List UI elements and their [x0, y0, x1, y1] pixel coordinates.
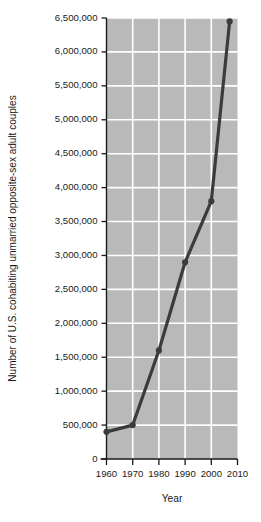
y-axis-tick-label: 5,500,000 [55, 79, 98, 90]
line-chart: 0500,0001,000,0001,500,0002,000,0002,500… [0, 0, 261, 522]
y-axis-tick-label: 4,000,000 [55, 181, 98, 192]
x-axis-tick-label: 1970 [122, 468, 143, 479]
y-axis-tick-label: 6,000,000 [55, 45, 98, 56]
x-axis-tick-label: 2000 [201, 468, 222, 479]
x-axis-tick-label: 1990 [174, 468, 195, 479]
y-axis-tick-label: 3,000,000 [55, 249, 98, 260]
data-point-marker [156, 347, 162, 353]
data-point-marker [227, 18, 233, 24]
y-axis-tick-label: 500,000 [63, 419, 98, 430]
x-axis-title: Year [162, 493, 183, 504]
data-point-marker [182, 259, 188, 265]
y-axis-tick-label: 4,500,000 [55, 147, 98, 158]
y-axis-tick-label: 1,000,000 [55, 385, 98, 396]
y-axis-tick-label: 0 [92, 453, 97, 464]
data-point-marker [103, 429, 109, 435]
x-axis-tick-label: 2010 [227, 468, 248, 479]
y-axis-tick-label: 1,500,000 [55, 351, 98, 362]
data-point-marker [130, 422, 136, 428]
y-axis-tick-label: 2,000,000 [55, 317, 98, 328]
x-axis-tick-label: 1960 [96, 468, 117, 479]
y-axis-title: Number of U.S. cohabiting unmarried oppo… [7, 95, 18, 381]
plot-background [107, 18, 238, 459]
x-axis-tick-label: 1980 [148, 468, 169, 479]
data-point-marker [208, 198, 214, 204]
y-axis-tick-label: 6,500,000 [55, 12, 98, 23]
chart-figure: 0500,0001,000,0001,500,0002,000,0002,500… [0, 0, 261, 522]
y-axis-tick-label: 2,500,000 [55, 283, 98, 294]
y-axis-tick-label: 3,500,000 [55, 215, 98, 226]
y-axis-tick-label: 5,000,000 [55, 113, 98, 124]
